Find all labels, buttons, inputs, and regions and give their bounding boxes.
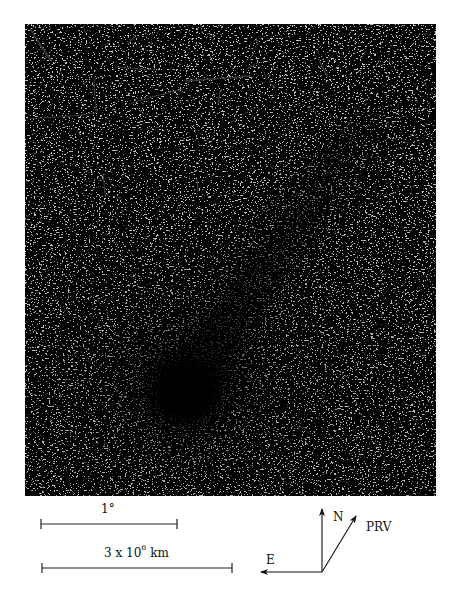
scale-label-exponent: 6 xyxy=(141,543,146,552)
comet-figure: 1° 3 x 106 km N E PRV xyxy=(0,0,457,601)
scale-label-1-degree: 1° xyxy=(101,503,115,515)
compass-label-east: E xyxy=(266,554,275,566)
annotations xyxy=(0,0,457,601)
scale-bar-1-degree xyxy=(41,519,177,529)
scale-label-mantissa: 3 x 10 xyxy=(104,546,141,560)
compass-label-prv: PRV xyxy=(366,521,391,533)
scale-label-3e6-km: 3 x 106 km xyxy=(104,546,169,559)
scale-bar-3e6-km xyxy=(42,563,232,573)
compass-label-north: N xyxy=(333,511,344,523)
scale-label-unit: km xyxy=(146,546,168,560)
prv-arrow xyxy=(322,516,356,572)
